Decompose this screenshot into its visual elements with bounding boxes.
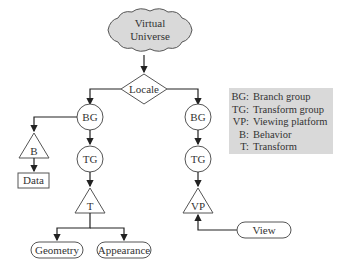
edge-transform-appearance: [90, 228, 124, 240]
legend-item-tg: TG: Transform group: [229, 104, 333, 117]
legend-value: Behavior: [253, 129, 292, 142]
transform-label: T: [87, 200, 94, 212]
left-bg-label: BG: [82, 111, 97, 123]
edge-bg-behavior: [34, 117, 77, 131]
left-tg-node: TG: [77, 146, 103, 172]
legend-key: B:: [229, 129, 253, 142]
legend-key: BG:: [229, 91, 253, 104]
edge-locale-left-bg: [90, 89, 121, 104]
right-bg-node: BG: [185, 104, 211, 130]
right-tg-label: TG: [191, 153, 206, 165]
virtual-universe-node: Virtual Universe: [108, 9, 192, 52]
legend-key: TG:: [229, 104, 253, 117]
viewing-platform-label: VP: [191, 200, 205, 212]
left-tg-label: TG: [83, 153, 98, 165]
legend: BG: Branch group TG: Transform group VP:…: [229, 88, 333, 154]
virtual-universe-label-1: Virtual: [135, 17, 166, 29]
legend-value: Viewing platform: [253, 116, 327, 129]
legend-value: Transform group: [253, 104, 324, 117]
legend-item-b: B: Behavior: [229, 129, 333, 142]
edge-view-vp: [198, 215, 237, 230]
locale-node: Locale: [121, 74, 167, 104]
legend-item-vp: VP: Viewing platform: [229, 116, 333, 129]
appearance-label: Appearance: [98, 244, 151, 256]
locale-label: Locale: [129, 83, 159, 95]
legend-item-bg: BG: Branch group: [229, 91, 333, 104]
data-node: Data: [18, 173, 49, 188]
right-tg-node: TG: [185, 146, 211, 172]
view-label: View: [252, 224, 275, 236]
left-bg-node: BG: [77, 104, 103, 130]
legend-key: T:: [229, 141, 253, 154]
edge-transform-geometry: [57, 213, 90, 240]
virtual-universe-label-2: Universe: [130, 30, 170, 42]
view-node: View: [237, 222, 291, 238]
edge-locale-right-bg: [167, 89, 198, 104]
geometry-node: Geometry: [31, 242, 83, 258]
right-bg-label: BG: [190, 111, 205, 123]
geometry-label: Geometry: [35, 244, 79, 256]
viewing-platform-node: VP: [183, 188, 213, 213]
behavior-node: B: [19, 133, 49, 158]
legend-value: Transform: [253, 141, 297, 154]
transform-node: T: [75, 188, 105, 213]
legend-value: Branch group: [253, 91, 310, 104]
legend-key: VP:: [229, 116, 253, 129]
data-label: Data: [23, 174, 44, 186]
legend-item-t: T: Transform: [229, 141, 333, 154]
appearance-node: Appearance: [97, 242, 151, 258]
behavior-label: B: [30, 145, 37, 157]
